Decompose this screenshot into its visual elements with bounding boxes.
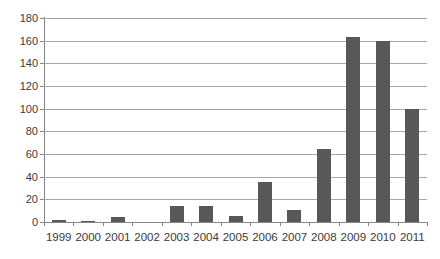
bar	[287, 210, 301, 222]
gridline	[44, 63, 427, 64]
x-axis-tick-marks	[44, 222, 428, 227]
y-axis-tick-marks	[0, 18, 44, 222]
gridline	[44, 109, 427, 110]
bar-chart: 180160140120100806040200 199920002001200…	[0, 0, 440, 259]
x-axis-tick-mark	[280, 222, 281, 226]
bar	[199, 206, 213, 222]
x-axis-tick-mark	[309, 222, 310, 226]
x-axis-tick-mark	[398, 222, 399, 226]
bar	[376, 41, 390, 222]
gridline	[44, 177, 427, 178]
gridline	[44, 199, 427, 200]
x-axis-tick-mark	[250, 222, 251, 226]
bar	[346, 37, 360, 222]
x-axis-tick-mark	[103, 222, 104, 226]
gridline	[44, 154, 427, 155]
x-axis-tick-mark	[191, 222, 192, 226]
x-axis-tick-mark	[339, 222, 340, 226]
bar	[405, 109, 419, 222]
bar	[317, 149, 331, 222]
bar	[258, 182, 272, 222]
plot-area	[44, 18, 427, 222]
x-axis-tick-mark	[221, 222, 222, 226]
x-axis-tick-mark	[132, 222, 133, 226]
gridline	[44, 86, 427, 87]
x-axis-tick-mark	[44, 222, 45, 226]
x-axis-tick-mark	[427, 222, 428, 226]
bar	[170, 206, 184, 222]
x-axis-tick-label: 2011	[392, 230, 432, 244]
x-axis-tick-mark	[368, 222, 369, 226]
x-axis-tick-mark	[162, 222, 163, 226]
x-axis-tick-mark	[73, 222, 74, 226]
gridline	[44, 41, 427, 42]
gridline	[44, 18, 427, 19]
gridline	[44, 131, 427, 132]
x-axis-tick-labels: 1999200020012002200320042005200620072008…	[0, 230, 440, 250]
